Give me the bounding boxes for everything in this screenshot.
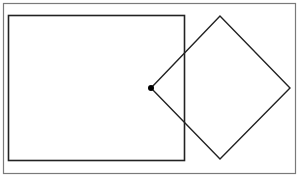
diamond-shape <box>151 16 290 159</box>
diagram-canvas <box>0 0 301 175</box>
vertex-dot <box>148 85 154 91</box>
rectangle-shape <box>9 16 185 161</box>
